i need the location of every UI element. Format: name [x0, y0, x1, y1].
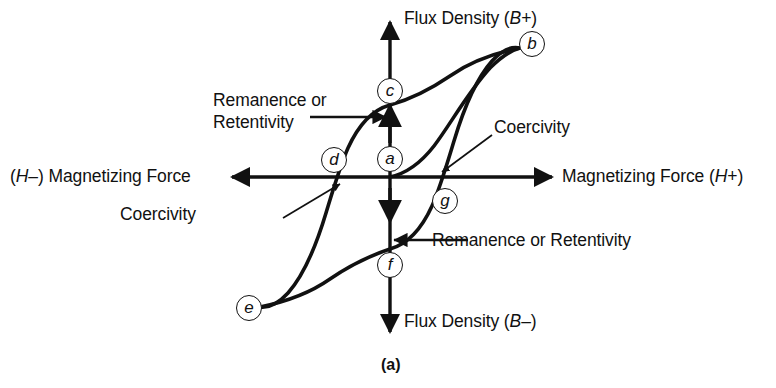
point-label-c: c [377, 78, 403, 104]
symbol-b-positive: B [510, 8, 522, 28]
point-label-d: d [321, 147, 347, 173]
annotation-remanence-top: Remanence or Retentivity [213, 89, 328, 133]
curve-initial-magnetization [390, 48, 520, 177]
point-label-a: a [377, 146, 403, 172]
axis-label-flux-density-positive: Flux Density (B+) [404, 8, 537, 29]
annotation-remanence-top-line1: Remanence or [213, 90, 327, 110]
point-label-f: f [377, 252, 403, 278]
annotation-remanence-top-line2: Retentivity [213, 112, 294, 132]
figure-caption: (a) [381, 356, 401, 374]
point-label-b: b [519, 31, 545, 57]
annotation-coercivity-left: Coercivity [120, 204, 196, 225]
annotation-remanence-bottom: Remanence or Retentivity [432, 230, 631, 251]
axis-label-flux-density-negative: Flux Density (B–) [404, 311, 537, 332]
hysteresis-loop-figure: Flux Density (B+) Flux Density (B–) (H–)… [0, 0, 776, 388]
symbol-h-negative: H [16, 166, 29, 186]
point-label-e: e [236, 295, 262, 321]
point-label-g: g [432, 188, 458, 214]
symbol-b-negative: B [510, 311, 522, 331]
axis-label-magnetizing-force-negative: (H–) Magnetizing Force [10, 166, 191, 187]
axis-label-magnetizing-force-positive: Magnetizing Force (H+) [562, 166, 743, 187]
hysteresis-diagram [0, 0, 776, 388]
annotation-coercivity-right: Coercivity [494, 117, 570, 138]
symbol-h-positive: H [715, 166, 728, 186]
